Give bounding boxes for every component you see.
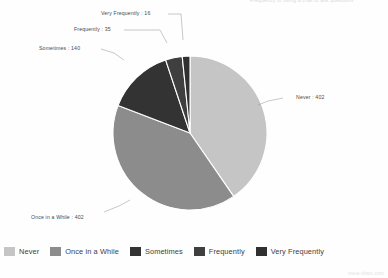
pie-chart-screenshot: Frequency of using a chat to ask questio… xyxy=(0,0,388,278)
legend-item[interactable]: Once in a While xyxy=(50,247,119,256)
watermark: meta-chart.com xyxy=(348,271,384,276)
leader-line-frequently xyxy=(124,30,167,43)
leader-line-very-frequently xyxy=(168,14,183,40)
legend-label: Frequently xyxy=(209,247,245,256)
legend-swatch-icon xyxy=(4,247,15,256)
leader-line-sometimes xyxy=(101,49,124,60)
legend-swatch-icon xyxy=(256,247,267,256)
leader-line-once-in-a-while xyxy=(104,200,130,212)
pie-slices xyxy=(113,56,267,210)
legend-item[interactable]: Frequently xyxy=(194,247,245,256)
slice-label-once-in-a-while: Once in a While : 402 xyxy=(31,215,84,220)
slice-label-very-frequently: Very Frequently : 16 xyxy=(101,11,150,16)
legend-label: Never xyxy=(19,247,39,256)
slice-label-never: Never : 402 xyxy=(296,95,324,100)
legend-item[interactable]: Sometimes xyxy=(130,247,183,256)
legend-item[interactable]: Very Frequently xyxy=(256,247,324,256)
legend-label: Sometimes xyxy=(145,247,183,256)
chart-legend: NeverOnce in a WhileSometimesFrequentlyV… xyxy=(0,240,388,262)
legend-swatch-icon xyxy=(194,247,205,256)
pie-svg xyxy=(0,0,388,238)
slice-label-frequently: Frequently : 35 xyxy=(74,27,111,32)
legend-swatch-icon xyxy=(50,247,61,256)
chart-plot-area: Frequency of using a chat to ask questio… xyxy=(0,0,388,238)
legend-label: Very Frequently xyxy=(271,247,324,256)
legend-swatch-icon xyxy=(130,247,141,256)
legend-label: Once in a While xyxy=(65,247,119,256)
legend-item[interactable]: Never xyxy=(4,247,39,256)
slice-label-sometimes: Sometimes : 140 xyxy=(39,46,80,51)
